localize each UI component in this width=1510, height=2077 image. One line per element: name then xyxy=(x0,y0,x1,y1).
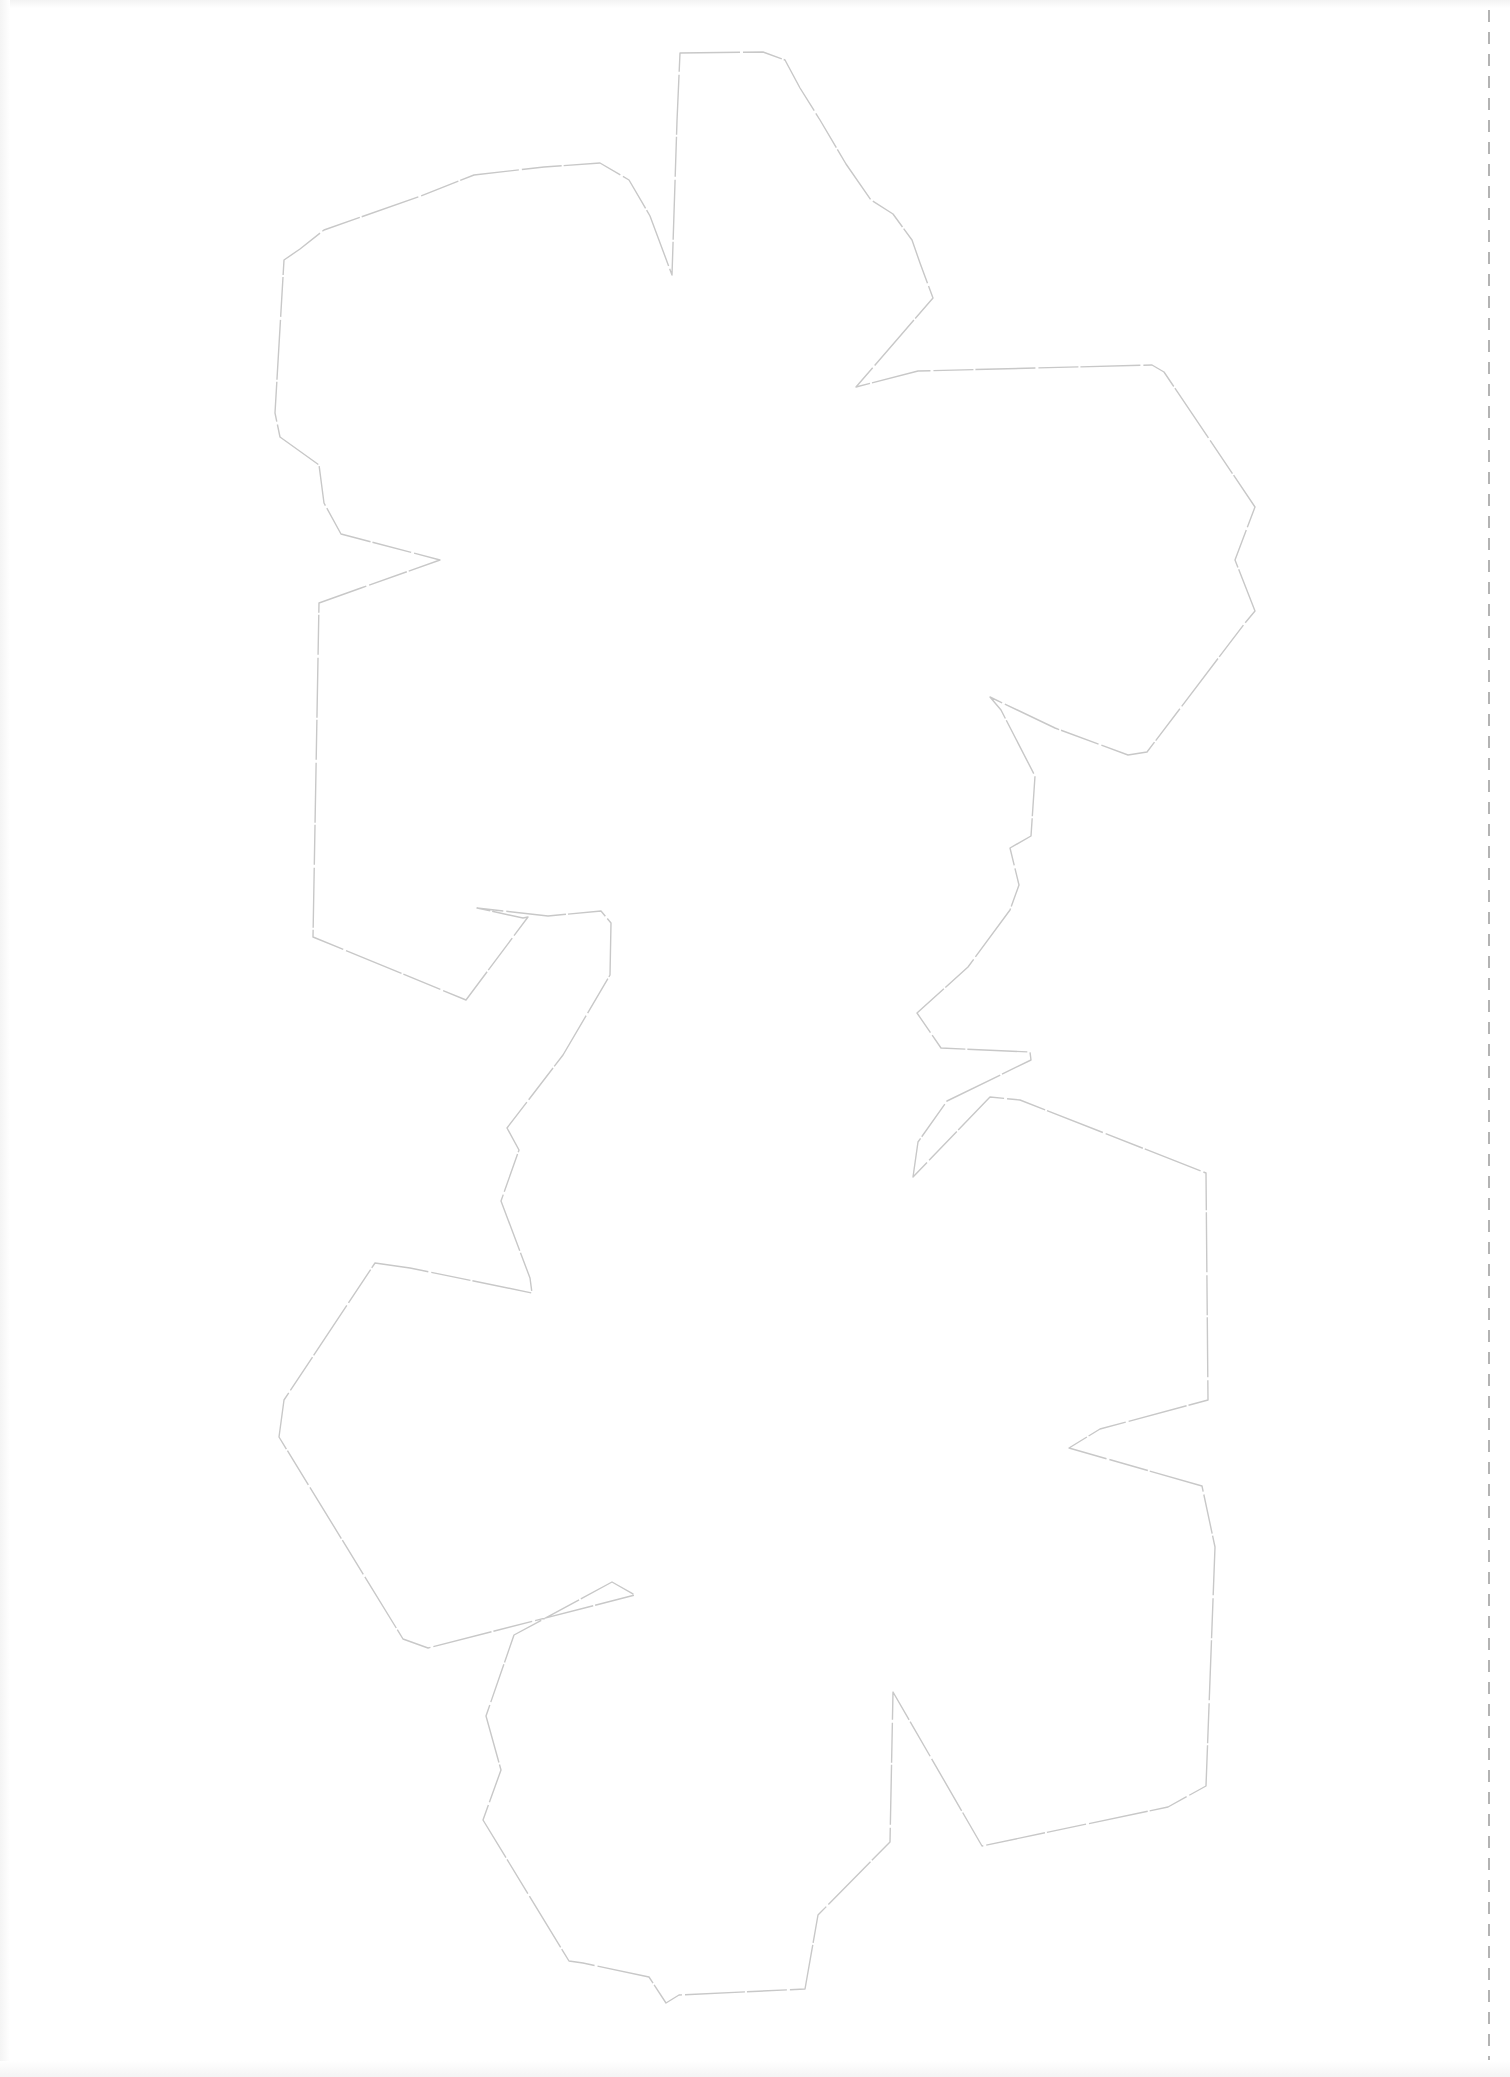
net-cut-outline xyxy=(275,52,1255,2003)
scanned-paper-sheet xyxy=(0,0,1510,2077)
dodecahedron-net-drawing xyxy=(0,0,1510,2077)
